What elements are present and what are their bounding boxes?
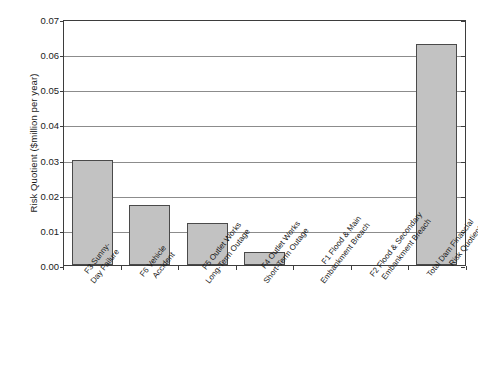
x-axis-tick xyxy=(178,266,179,270)
bar-chart: Risk Quotient ($million per year) 0.070.… xyxy=(0,0,478,366)
x-axis-tick xyxy=(293,266,294,270)
y-axis-tick-label: 0.02 xyxy=(26,190,59,201)
x-axis-label-wrap: F5 Outlet WorksLong-Term Outage xyxy=(178,271,236,366)
x-axis-tick xyxy=(408,266,409,270)
x-axis-tick xyxy=(351,266,352,270)
y-axis-tick-label: 0.04 xyxy=(26,120,59,131)
y-axis-tick-label: 0.00 xyxy=(26,261,59,272)
x-axis-tick xyxy=(236,266,237,270)
x-axis-tick xyxy=(466,266,467,270)
x-axis-tick xyxy=(63,266,64,270)
y-axis-tick-labels: 0.070.060.050.040.030.020.010.00 xyxy=(26,20,59,266)
x-axis-label-wrap: F2 Flood & SecondaryEmbankment Breach xyxy=(351,271,409,366)
x-axis-label-wrap: F4 Outlet WorksShort-Term Outage xyxy=(236,271,294,366)
x-axis-label-wrap: Total Dam FinancialRisk Quotient xyxy=(408,271,466,366)
bar-slot xyxy=(179,21,236,265)
x-axis-tick xyxy=(121,266,122,270)
x-axis-tick-labels: F3 Sunny-Day FailureF6 VehicleAccidentF5… xyxy=(63,271,466,366)
y-axis-tick-label: 0.05 xyxy=(26,85,59,96)
y-axis-tick-label: 0.07 xyxy=(26,15,59,26)
y-axis-tick-label: 0.01 xyxy=(26,225,59,236)
x-axis-label-wrap: F3 Sunny-Day Failure xyxy=(63,271,121,366)
x-axis-label-wrap: F6 VehicleAccident xyxy=(121,271,179,366)
y-axis-tick-label: 0.03 xyxy=(26,155,59,166)
x-axis-label-wrap: F1 Flood & MainEmbankment Breach xyxy=(293,271,351,366)
bar-slot xyxy=(64,21,121,265)
y-axis-tick-label: 0.06 xyxy=(26,50,59,61)
bar-slot xyxy=(121,21,178,265)
